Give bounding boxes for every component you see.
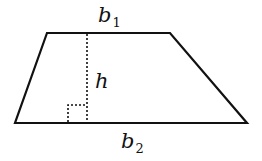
trapezoid-diagram: b1 h b2 — [0, 0, 262, 161]
bottom-base-subscript: 2 — [135, 141, 143, 156]
trapezoid-outline — [15, 33, 247, 123]
top-base-subscript: 1 — [112, 15, 120, 30]
right-angle-marker — [68, 105, 87, 122]
bottom-base-label: b2 — [121, 129, 144, 156]
top-base-label: b1 — [98, 3, 121, 30]
top-base-letter: b — [98, 3, 111, 27]
bottom-base-letter: b — [121, 129, 134, 153]
height-label: h — [95, 69, 109, 93]
